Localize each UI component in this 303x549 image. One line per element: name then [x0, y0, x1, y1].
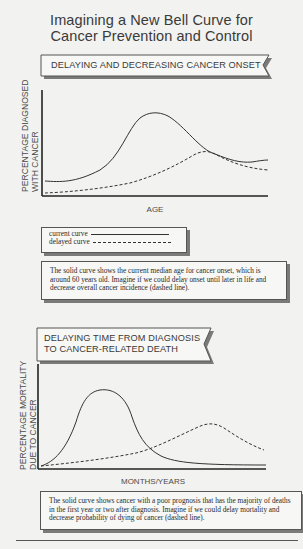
solid-line-swatch	[91, 234, 169, 235]
title-line-2: Cancer Prevention and Control	[0, 28, 303, 44]
section1-banner: DELAYING AND DECREASING CANCER ONSET	[40, 53, 278, 83]
legend-item-delayed: delayed curve	[49, 239, 186, 248]
section2-banner-text: DELAYING TIME FROM DIAGNOSIS TO CANCER-R…	[44, 333, 200, 355]
dashed-line-swatch	[93, 242, 171, 243]
delayed-curve	[45, 152, 268, 193]
dashed-curve	[41, 424, 264, 466]
footer-divider	[16, 540, 298, 541]
section2-chart	[36, 362, 270, 472]
section1-legend: current curve delayed curve	[41, 227, 187, 253]
current-curve	[45, 113, 268, 182]
section1-caption: The solid curve shows the current median…	[41, 261, 287, 300]
section2-caption: The solid curve shows cancer with a poor…	[40, 491, 302, 530]
section1-y-axis-label: PERCENTAGE DIAGNOSED WITH CANCER	[21, 79, 40, 192]
solid-curve	[41, 390, 266, 466]
section2-x-axis-label: MONTHS/YEARS	[108, 477, 198, 486]
title-line-1: Imagining a New Bell Curve for	[0, 12, 303, 28]
page-title: Imagining a New Bell Curve for Cancer Pr…	[0, 12, 303, 44]
section1-x-axis-label: AGE	[140, 205, 170, 214]
section1-banner-text: DELAYING AND DECREASING CANCER ONSET	[51, 60, 261, 71]
section1-chart	[40, 88, 272, 200]
